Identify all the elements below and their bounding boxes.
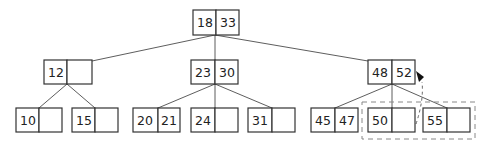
key-cell: [447, 108, 470, 132]
edge-root-n12: [92, 35, 215, 61]
edge-n12-l10: [39, 84, 67, 108]
leaf-key: 15: [76, 113, 92, 128]
edge-n12-l15: [67, 84, 95, 108]
leaf-node-10: 10: [16, 108, 62, 132]
internal-node-23-30: 23 30: [191, 60, 238, 84]
leaf-node-20-21: 20 21: [133, 108, 180, 132]
leaf-node-45-47: 45 47: [311, 108, 358, 132]
leaf-key: 20: [137, 113, 153, 128]
leaf-key: 24: [195, 113, 211, 128]
leaf-key: 50: [372, 113, 388, 128]
edge-n23_30-l31: [215, 84, 272, 108]
edges-root: [92, 35, 368, 61]
key-cell: [392, 108, 415, 132]
key-cell: [95, 108, 118, 132]
node-key: 23: [195, 65, 211, 80]
leaf-key: 45: [315, 113, 331, 128]
leaf-key: 31: [252, 113, 268, 128]
node-key: 48: [372, 65, 388, 80]
key-cell: [272, 108, 295, 132]
leaf-node-24: 24: [191, 108, 238, 132]
key-cell: [39, 108, 62, 132]
key-cell: [67, 60, 92, 84]
edge-n48_52-l45_47: [335, 84, 392, 108]
key-cell: [215, 108, 238, 132]
b-tree-diagram: 18 33 12 23 30 48 52 10 15 20 2: [0, 0, 493, 144]
arrow-shaft: [416, 82, 422, 124]
leaf-node-55: 55: [423, 108, 470, 132]
edge-root-n48_52: [215, 35, 368, 61]
root-node: 18 33: [193, 10, 239, 35]
leaf-key: 21: [161, 113, 177, 128]
edge-n48_52-l55: [392, 84, 447, 108]
edges-level1: [39, 84, 447, 108]
root-key-0: 18: [197, 15, 213, 30]
leaf-key: 10: [20, 113, 36, 128]
internal-node-48-52: 48 52: [368, 60, 415, 84]
leaf-node-31: 31: [248, 108, 295, 132]
internal-node-12: 12: [44, 60, 92, 84]
root-key-1: 33: [220, 15, 236, 30]
leaf-key: 47: [339, 113, 355, 128]
edge-n23_30-l20_21: [158, 84, 215, 108]
node-key: 52: [396, 65, 412, 80]
node-key: 30: [219, 65, 235, 80]
arrow-head-icon: [416, 71, 424, 82]
leaf-node-50: 50: [368, 108, 415, 132]
leaf-node-15: 15: [72, 108, 118, 132]
leaf-key: 55: [427, 113, 443, 128]
node-key: 12: [48, 65, 64, 80]
